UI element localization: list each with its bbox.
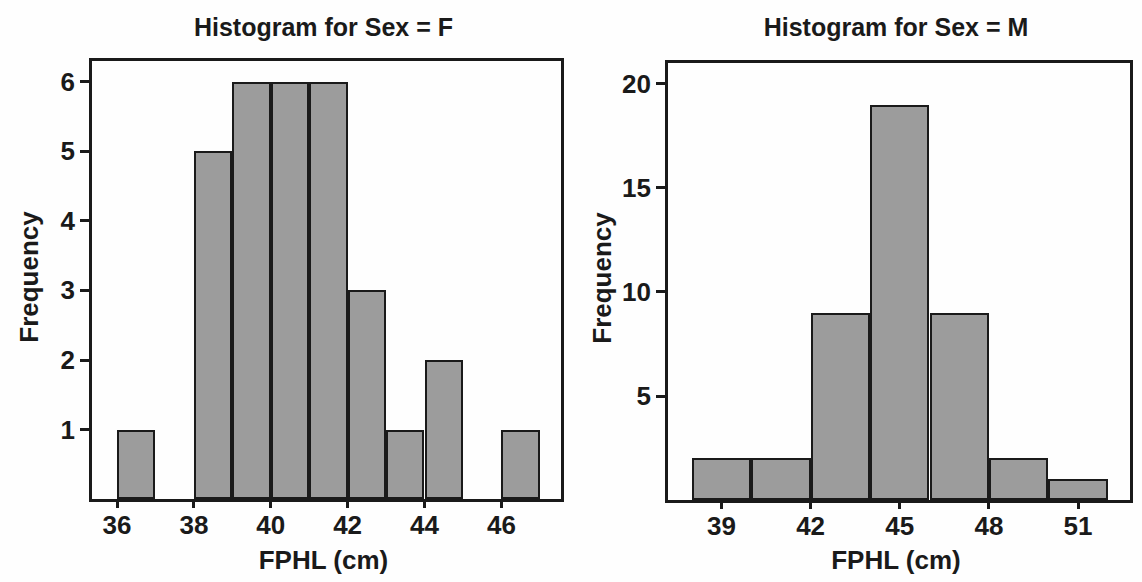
x-tick-mark [809, 500, 812, 509]
x-tick-mark [423, 499, 426, 508]
x-tick-label: 39 [707, 513, 736, 539]
y-tick-label: 6 [61, 69, 75, 95]
x-tick-mark [898, 500, 901, 509]
y-tick-label: 20 [622, 71, 651, 97]
x-tick-mark [1077, 500, 1080, 509]
y-tick-mark [656, 395, 665, 398]
y-tick-mark [80, 80, 89, 83]
y-tick-mark [656, 82, 665, 85]
y-tick-label: 3 [61, 277, 75, 303]
histogram-bar [692, 458, 751, 500]
y-tick-mark [80, 219, 89, 222]
x-tick-label: 36 [103, 512, 132, 538]
plot-area-f: 363840424446123456 [89, 58, 564, 502]
y-tick-mark [656, 186, 665, 189]
x-tick-mark [500, 499, 503, 508]
x-tick-mark [987, 500, 990, 509]
x-tick-label: 44 [410, 512, 439, 538]
x-tick-mark [720, 500, 723, 509]
histogram-bar [870, 105, 929, 500]
histogram-bar [386, 430, 424, 500]
histogram-bar [348, 290, 386, 499]
y-tick-label: 5 [61, 138, 75, 164]
histogram-bar [194, 151, 232, 499]
y-tick-mark [80, 289, 89, 292]
histogram-bar [271, 82, 309, 499]
plot-area-m: 39424548515101520 [665, 60, 1133, 503]
x-axis-label-f: FPHL (cm) [89, 545, 558, 576]
x-tick-label: 48 [974, 513, 1003, 539]
x-axis-label-m: FPHL (cm) [665, 545, 1127, 576]
histogram-sex-m: Histogram for Sex = M Frequency 39424548… [571, 0, 1142, 582]
x-tick-label: 46 [487, 512, 516, 538]
histogram-bar [501, 430, 539, 500]
y-tick-label: 1 [61, 417, 75, 443]
histogram-sex-f: Histogram for Sex = F Frequency 36384042… [0, 0, 571, 582]
figure-canvas: Histogram for Sex = F Frequency 36384042… [0, 0, 1142, 582]
chart-title-m: Histogram for Sex = M [665, 13, 1127, 42]
y-tick-label: 10 [622, 279, 651, 305]
x-tick-mark [192, 499, 195, 508]
x-tick-mark [269, 499, 272, 508]
x-tick-label: 38 [179, 512, 208, 538]
histogram-bar [117, 430, 155, 500]
x-tick-label: 51 [1064, 513, 1093, 539]
y-tick-label: 2 [61, 347, 75, 373]
y-axis-label-f: Frequency [14, 167, 44, 387]
chart-title-f: Histogram for Sex = F [89, 13, 558, 42]
x-tick-label: 42 [796, 513, 825, 539]
y-tick-label: 4 [61, 208, 75, 234]
histogram-bar [425, 360, 463, 499]
x-tick-label: 40 [256, 512, 285, 538]
y-tick-label: 15 [622, 175, 651, 201]
x-tick-label: 42 [333, 512, 362, 538]
y-tick-label: 5 [637, 383, 651, 409]
histogram-bar [811, 313, 870, 500]
y-tick-mark [656, 290, 665, 293]
histogram-bar [930, 313, 989, 500]
y-tick-mark [80, 359, 89, 362]
y-tick-mark [80, 150, 89, 153]
histogram-bar [1048, 479, 1107, 500]
x-tick-mark [116, 499, 119, 508]
histogram-bar [232, 82, 270, 499]
x-tick-mark [346, 499, 349, 508]
histogram-bar [309, 82, 347, 499]
y-tick-mark [80, 428, 89, 431]
histogram-bar [989, 458, 1048, 500]
histogram-bar [751, 458, 810, 500]
y-axis-label-m: Frequency [587, 168, 617, 388]
x-tick-label: 45 [885, 513, 914, 539]
